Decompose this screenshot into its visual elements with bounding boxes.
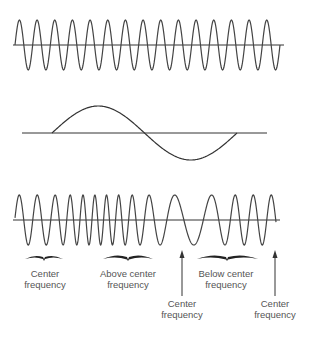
label-line: Center [157,298,207,309]
label-line: frequency [20,279,70,290]
label-center-frequency: Center frequency [20,268,70,290]
label-center-arrow-2: Center frequency [250,298,300,320]
label-line: frequency [193,279,259,290]
label-line: Above center [95,268,161,279]
label-above-center: Above center frequency [95,268,161,290]
modulating-panel [22,106,267,160]
braces [25,255,258,261]
label-center-arrow-1: Center frequency [157,298,207,320]
label-line: frequency [250,309,300,320]
brace-above [103,255,153,261]
label-line: Below center [193,268,259,279]
brace-center [25,256,63,261]
label-line: Center [20,268,70,279]
arrow-head-2 [273,250,278,258]
label-line: frequency [95,279,161,290]
label-line: frequency [157,309,207,320]
fm-panel [13,195,280,245]
carrier-panel [13,20,284,70]
label-line: Center [250,298,300,309]
arrow-head-1 [180,250,185,258]
brace-below [197,255,258,261]
label-below-center: Below center frequency [193,268,259,290]
